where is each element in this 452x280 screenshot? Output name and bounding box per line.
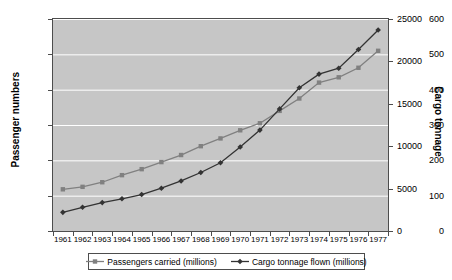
y-axis-left-tick-label: 300: [429, 120, 444, 130]
data-point-marker: [376, 49, 380, 53]
x-axis-tick-mark: [132, 232, 133, 236]
x-axis-tick-label: 1965: [133, 235, 151, 244]
legend-item[interactable]: Passengers carried (millions): [86, 257, 217, 267]
y-axis-left-tick-label: 200: [429, 155, 444, 165]
x-axis-tick-label: 1976: [350, 235, 368, 244]
data-point-marker: [159, 160, 163, 164]
y-axis-right-tick-mark: [389, 189, 393, 190]
x-axis-tick-mark: [230, 232, 231, 236]
plot-area: [52, 18, 389, 232]
y-axis-right-tick-label: 5000: [397, 184, 417, 194]
legend-diamond-marker-icon: [231, 257, 249, 266]
plot-svg: [53, 19, 388, 231]
x-axis-tick-mark: [152, 232, 153, 236]
x-axis-tick-label: 1974: [310, 235, 328, 244]
data-point-marker: [119, 196, 125, 202]
data-point-marker: [80, 204, 86, 210]
x-axis-tick-label: 1963: [93, 235, 111, 244]
x-axis-tick-mark: [309, 232, 310, 236]
data-point-marker: [297, 96, 301, 100]
x-axis-tick-mark: [112, 232, 113, 236]
data-point-marker: [199, 144, 203, 148]
x-axis-tick-label: 1969: [212, 235, 230, 244]
chart-legend: Passengers carried (millions)Cargo tonna…: [88, 253, 365, 270]
x-axis-tick-mark: [53, 232, 54, 236]
x-axis-tick-mark: [211, 232, 212, 236]
data-point-marker: [238, 128, 242, 132]
x-axis-tick-label: 1977: [369, 235, 387, 244]
x-axis-tick-mark: [270, 232, 271, 236]
y-axis-left-tick-label: 0: [439, 226, 444, 236]
y-axis-left-tick-label: 100: [429, 191, 444, 201]
data-point-marker: [99, 200, 105, 206]
x-axis-tick-mark: [329, 232, 330, 236]
legend-item-label: Passengers carried (millions): [107, 257, 217, 267]
data-point-marker: [179, 153, 183, 157]
data-point-marker: [61, 187, 65, 191]
y-axis-right-tick-mark: [389, 146, 393, 147]
y-axis-right-tick-label: 15000: [397, 99, 422, 109]
data-point-marker: [100, 180, 104, 184]
data-point-marker: [258, 121, 262, 125]
x-axis-tick-mark: [349, 232, 350, 236]
y-axis-right-tick-mark: [389, 19, 393, 20]
data-point-marker: [120, 173, 124, 177]
data-point-marker: [60, 210, 66, 216]
x-axis-tick-mark: [191, 232, 192, 236]
series-line-cargo: [63, 30, 378, 212]
x-axis-tick-label: 1975: [330, 235, 348, 244]
x-axis-tick-mark: [250, 232, 251, 236]
data-point-marker: [356, 66, 360, 70]
data-point-marker: [337, 75, 341, 79]
data-point-marker: [218, 136, 222, 140]
data-point-marker: [317, 80, 321, 84]
x-axis-tick-label: 1971: [251, 235, 269, 244]
x-axis-tick-label: 1968: [192, 235, 210, 244]
y-axis-left-tick-label: 500: [429, 49, 444, 59]
y-axis-right-tick-mark: [389, 231, 393, 232]
y-axis-right-tick-label: 0: [397, 226, 402, 236]
x-axis-tick-label: 1962: [74, 235, 92, 244]
x-axis-tick-label: 1973: [290, 235, 308, 244]
x-axis-tick-label: 1970: [231, 235, 249, 244]
data-point-marker: [159, 185, 165, 191]
data-point-marker: [178, 178, 184, 184]
x-axis-tick-mark: [289, 232, 290, 236]
x-axis-tick-mark: [73, 232, 74, 236]
x-axis-tick-mark: [92, 232, 93, 236]
legend-item[interactable]: Cargo tonnage flown (millions): [231, 257, 367, 267]
data-point-marker: [139, 167, 143, 171]
x-axis-tick-mark: [368, 232, 369, 236]
y-axis-right-tick-mark: [389, 61, 393, 62]
y-axis-right-tick-mark: [389, 104, 393, 105]
legend-square-marker-icon: [86, 257, 104, 266]
y-axis-left-tick-label: 400: [429, 85, 444, 95]
y-axis-left-title: Passenger numbers: [10, 76, 21, 168]
data-point-marker: [80, 185, 84, 189]
legend-item-label: Cargo tonnage flown (millions): [252, 257, 367, 267]
series-line-passengers: [63, 51, 378, 190]
x-axis-tick-label: 1967: [172, 235, 190, 244]
x-axis-tick-label: 1964: [113, 235, 131, 244]
x-axis-tick-label: 1972: [271, 235, 289, 244]
x-axis-tick-label: 1966: [152, 235, 170, 244]
y-axis-left-tick-label: 600: [429, 14, 444, 24]
y-axis-right-tick-label: 10000: [397, 141, 422, 151]
x-axis-tick-label: 1961: [54, 235, 72, 244]
chart-figure: Passenger numbers Cargo tonnage 01002003…: [0, 0, 452, 280]
y-axis-right-tick-label: 25000: [397, 14, 422, 24]
x-axis-tick-mark: [388, 232, 389, 236]
data-point-marker: [198, 170, 204, 176]
x-axis-tick-mark: [171, 232, 172, 236]
y-axis-right-tick-label: 20000: [397, 56, 422, 66]
